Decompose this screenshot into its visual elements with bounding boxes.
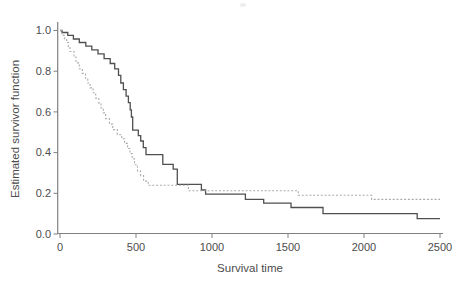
speck-artifact bbox=[240, 3, 246, 7]
y-tick-label: 0.8 bbox=[36, 65, 51, 77]
x-axis-title: Survival time bbox=[217, 262, 283, 274]
y-axis-title: Estimated survivor function bbox=[9, 60, 21, 198]
x-tick-label: 0 bbox=[57, 241, 63, 253]
y-tick-label: 0.2 bbox=[36, 187, 51, 199]
y-tick-label: 0.4 bbox=[36, 146, 51, 158]
y-tick-label: 1.0 bbox=[36, 24, 51, 36]
x-tick-label: 1000 bbox=[200, 241, 224, 253]
x-tick-label: 500 bbox=[127, 241, 145, 253]
y-tick-label: 0.0 bbox=[36, 228, 51, 240]
survival-curves bbox=[60, 31, 440, 219]
y-tick-label: 0.6 bbox=[36, 106, 51, 118]
x-axis-ticks: 05001000150020002500 bbox=[57, 234, 452, 253]
survival-curve-group-2-dotted bbox=[60, 31, 440, 200]
x-tick-label: 2500 bbox=[428, 241, 452, 253]
y-axis-ticks: 1.00.80.60.40.20.0 bbox=[36, 24, 58, 240]
x-tick-label: 2000 bbox=[352, 241, 376, 253]
kaplan-meier-plot: 1.00.80.60.40.20.0 05001000150020002500 … bbox=[0, 0, 470, 284]
x-tick-label: 1500 bbox=[276, 241, 300, 253]
survival-chart-page: 1.00.80.60.40.20.0 05001000150020002500 … bbox=[0, 0, 470, 284]
